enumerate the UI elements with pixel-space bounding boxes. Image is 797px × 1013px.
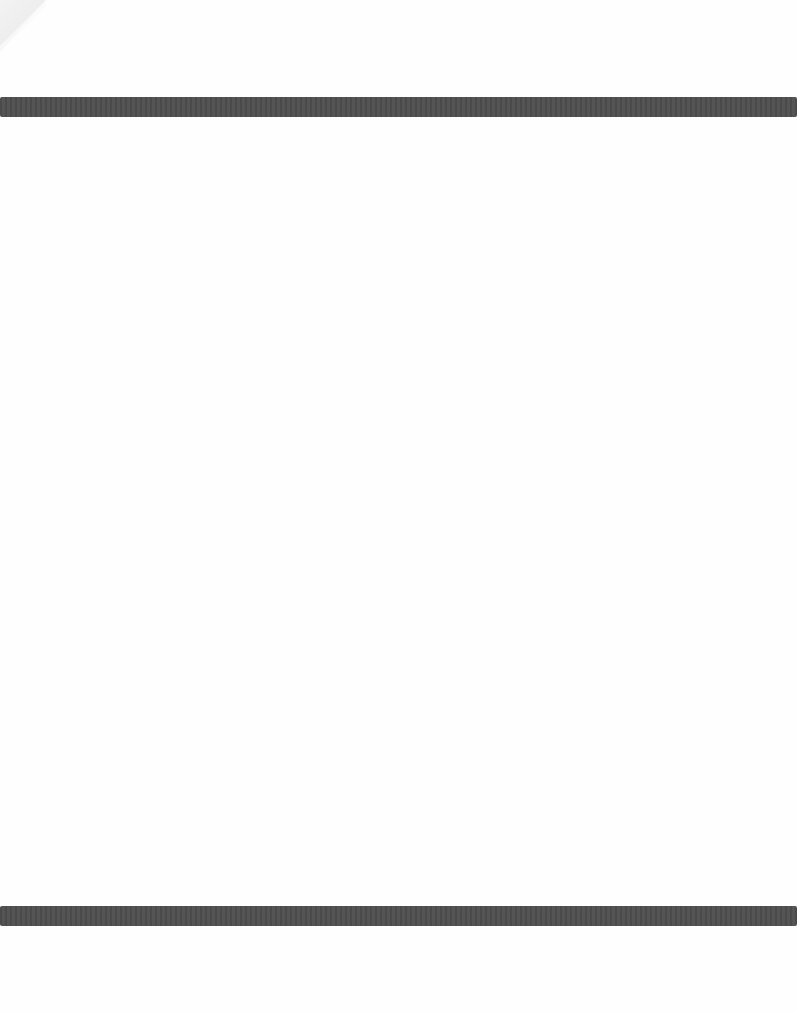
top-horizontal-bar bbox=[0, 97, 797, 117]
page-header-area bbox=[0, 0, 797, 97]
page-footer-area bbox=[0, 926, 797, 1013]
page-body-blank bbox=[0, 117, 797, 906]
bottom-horizontal-bar bbox=[0, 906, 797, 926]
scanned-page bbox=[0, 0, 797, 1013]
